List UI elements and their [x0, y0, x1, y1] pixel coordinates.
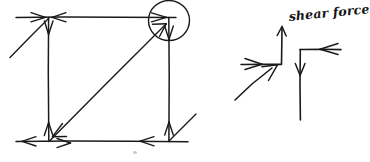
- right-diagram: [235, 27, 341, 121]
- top-chord: [16, 17, 176, 18]
- diagonal-brace: [50, 24, 166, 141]
- right-diagram-diagonal-member: [235, 68, 272, 100]
- bottom-left-arrow-right: [57, 139, 71, 148]
- lower-right-diagonal-stub: [169, 114, 196, 141]
- diagonal-arrow-up-right: [262, 65, 278, 81]
- right-diagram-shear-shaft: [282, 29, 283, 65]
- left-diagram: [10, 1, 196, 148]
- upper-left-diagonal-stub: [10, 19, 49, 58]
- bottom-chord: [16, 141, 188, 142]
